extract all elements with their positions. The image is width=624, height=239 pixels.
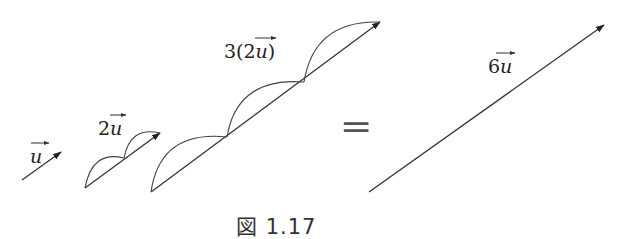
vector-2u xyxy=(85,132,160,188)
label-3-2u-coef: 2 xyxy=(244,40,256,62)
label-2u-var: u xyxy=(110,117,122,139)
arc-2u-2 xyxy=(124,132,160,158)
arc-3-2u-2 xyxy=(227,82,304,137)
figure-caption: 図 1.17 xyxy=(236,210,316,239)
label-u-var: u xyxy=(30,145,42,167)
vector-diagram xyxy=(0,0,624,239)
figure-1-17: u 2u 3(2u) 6u = 図 1.17 xyxy=(0,0,624,239)
arrow-6u-icon xyxy=(369,25,604,192)
label-3-2u-var: u xyxy=(256,40,268,62)
label-3-2u-prefix: 3( xyxy=(224,40,244,62)
vector-6u xyxy=(369,25,604,192)
arrow-2u-icon xyxy=(85,133,160,188)
label-2u-coef: 2 xyxy=(98,117,110,139)
label-6u: 6u xyxy=(488,57,512,76)
label-3-2u-suffix: ) xyxy=(268,40,275,62)
equals-sign: = xyxy=(340,109,373,143)
label-2u: 2u xyxy=(98,119,122,138)
label-u: u xyxy=(30,147,42,166)
label-3-2u: 3(2u) xyxy=(224,42,275,61)
label-6u-var: u xyxy=(500,55,512,77)
label-6u-coef: 6 xyxy=(488,55,500,77)
